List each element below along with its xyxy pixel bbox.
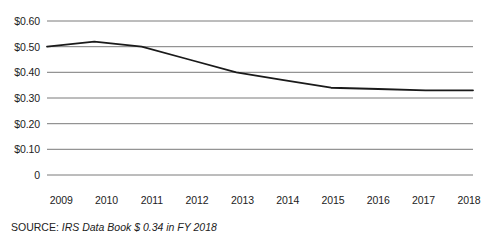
x-tick-label-2015: 2015 (311, 195, 355, 206)
x-tick-label-2014: 2014 (266, 195, 310, 206)
source-text: IRS Data Book $ 0.34 in FY 2018 (62, 221, 217, 233)
x-tick-label-2012: 2012 (175, 195, 219, 206)
chart-container: $0.60 $0.50 $0.40 $0.30 $0.20 $0.10 0 20… (0, 0, 493, 241)
x-tick-label-2009: 2009 (39, 195, 83, 206)
x-tick-label-2016: 2016 (356, 195, 400, 206)
x-tick-label-2011: 2011 (130, 195, 174, 206)
source-label: SOURCE: (11, 221, 59, 233)
x-tick-label-2013: 2013 (220, 195, 264, 206)
x-tick-label-2018: 2018 (447, 195, 491, 206)
series-line-cost-of-collecting (47, 42, 473, 91)
source-note: SOURCE: IRS Data Book $ 0.34 in FY 2018 (11, 221, 217, 233)
x-tick-label-2010: 2010 (85, 195, 129, 206)
x-tick-label-2017: 2017 (402, 195, 446, 206)
